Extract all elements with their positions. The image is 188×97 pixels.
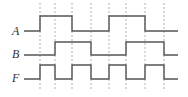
waveform-f [24, 65, 178, 79]
waveform-a [24, 16, 178, 31]
signal-label-b: B [12, 48, 19, 60]
signal-label-a: A [12, 25, 19, 37]
signal-waveforms [24, 16, 178, 79]
signal-label-f: F [12, 72, 19, 84]
timing-diagram: A B F [0, 0, 188, 97]
waveform-canvas [0, 0, 188, 97]
waveform-b [24, 42, 178, 55]
